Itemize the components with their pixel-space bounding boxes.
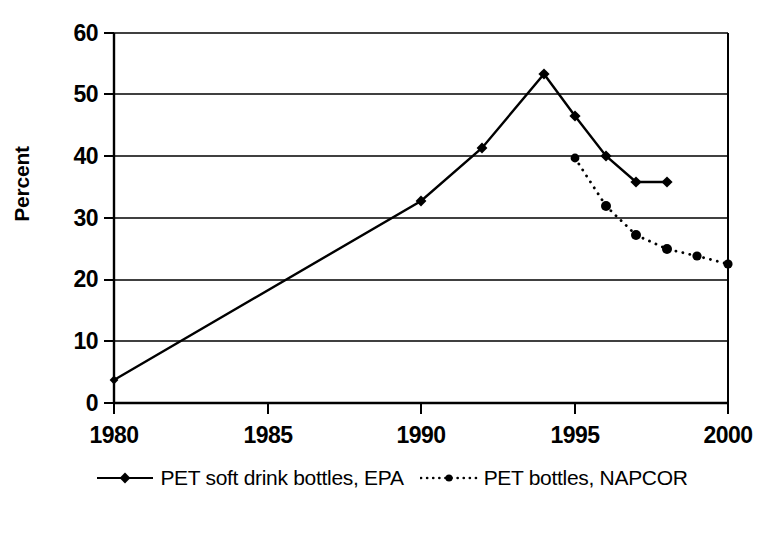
data-point-1995 bbox=[571, 154, 580, 163]
legend-label-epa: PET soft drink bottles, EPA bbox=[160, 466, 403, 490]
y-axis-ticks bbox=[104, 33, 114, 403]
diamond-solid-line-icon bbox=[96, 469, 154, 487]
data-point-1996 bbox=[601, 201, 611, 211]
data-point-1998 bbox=[661, 176, 672, 187]
chart-figure: Percent 60 50 40 30 20 10 0 1980 1985 19… bbox=[0, 0, 784, 535]
plot-area bbox=[0, 0, 784, 466]
data-point-1997 bbox=[631, 230, 641, 240]
legend-entry-epa: PET soft drink bottles, EPA bbox=[96, 466, 403, 490]
series-pet-soft-drink-bottles-epa bbox=[110, 68, 673, 384]
data-point-1998 bbox=[662, 244, 672, 254]
legend-label-napcor: PET bottles, NAPCOR bbox=[484, 466, 688, 490]
data-point-1999 bbox=[692, 251, 701, 260]
series-pet-bottles-napcor bbox=[571, 154, 733, 269]
series-napcor-line bbox=[575, 158, 728, 264]
series-napcor-markers bbox=[571, 154, 733, 269]
circle-dotted-line-icon bbox=[420, 469, 478, 487]
data-point-2000 bbox=[723, 259, 732, 268]
legend-entry-napcor: PET bottles, NAPCOR bbox=[420, 466, 688, 490]
series-epa-markers bbox=[110, 68, 673, 384]
x-axis-ticks bbox=[114, 403, 728, 414]
series-epa-line bbox=[114, 74, 667, 380]
chart-legend: PET soft drink bottles, EPA PET bottles,… bbox=[0, 466, 784, 490]
